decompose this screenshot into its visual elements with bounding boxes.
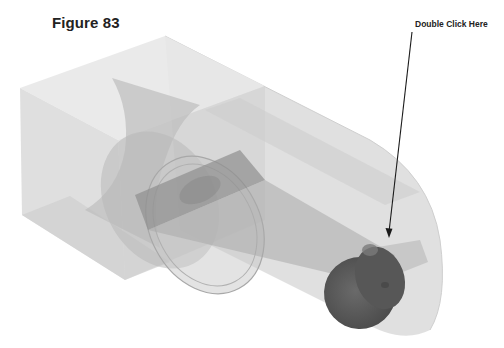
3d-model-view[interactable] (0, 0, 504, 348)
